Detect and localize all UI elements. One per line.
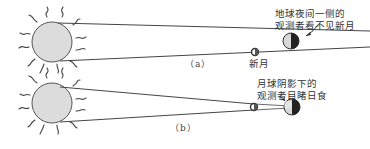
sun-icon — [19, 68, 86, 134]
panel-a-label: （a） — [185, 59, 211, 70]
earth-icon — [283, 33, 299, 49]
new-moon-icon — [252, 49, 259, 56]
new-moon-label: 新月 — [249, 58, 269, 69]
annotation-b-line1: 月球阴影下的 — [257, 78, 317, 89]
annotation-a-line1: 地球夜间一侧的 — [275, 8, 345, 19]
lower-ray-line — [60, 47, 370, 61]
annotation-a-line2: 观测者看不见新月 — [275, 20, 355, 31]
annotation-b-line2: 观测者目睹日食 — [257, 90, 327, 101]
panel-b-label: （b） — [170, 123, 197, 134]
upper-ray-line — [60, 87, 254, 104]
lower-ray-line — [60, 110, 254, 122]
moon-icon — [251, 104, 258, 111]
earth-icon — [284, 99, 300, 115]
sun-icon — [19, 7, 86, 73]
